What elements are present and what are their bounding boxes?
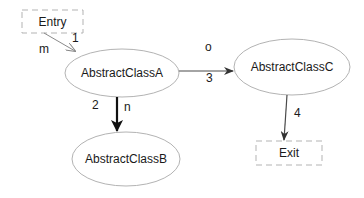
node-label: Entry — [38, 15, 66, 29]
node-label: AbstractClassC — [251, 60, 334, 74]
edge-order-label: 1 — [72, 31, 79, 45]
edge-a-to-c[interactable]: o 3 — [179, 40, 233, 85]
node-label: Exit — [279, 146, 300, 160]
node-entry[interactable]: Entry — [22, 10, 83, 33]
flow-diagram: Entry 1 m AbstractClassA o 3 AbstractCla… — [0, 0, 364, 198]
edge-order-label: 3 — [206, 71, 213, 85]
edge-a-to-b[interactable]: 2 n — [92, 97, 131, 131]
node-abstract-class-c[interactable]: AbstractClassC — [234, 39, 350, 95]
node-exit[interactable]: Exit — [256, 141, 322, 165]
node-abstract-class-a[interactable]: AbstractClassA — [65, 49, 179, 97]
edge-c-to-exit[interactable]: 4 — [284, 95, 301, 140]
edge-order-label: 2 — [92, 98, 99, 112]
edge-label: m — [39, 42, 49, 56]
edge-label: o — [205, 40, 212, 54]
edge-entry-to-a[interactable]: 1 m — [39, 31, 79, 56]
node-abstract-class-b[interactable]: AbstractClassB — [72, 132, 180, 186]
node-label: AbstractClassA — [81, 66, 163, 80]
edge-label: n — [124, 100, 131, 114]
arrow-icon — [284, 95, 287, 140]
edge-order-label: 4 — [294, 106, 301, 120]
node-label: AbstractClassB — [85, 152, 167, 166]
